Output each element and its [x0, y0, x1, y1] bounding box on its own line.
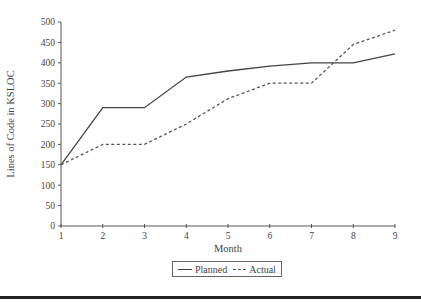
series-line-actual: [61, 30, 395, 165]
x-tick-label: 1: [59, 231, 64, 241]
legend-item-actual: Actual: [233, 264, 276, 275]
legend-item-planned: Planned: [178, 264, 227, 275]
x-tick-label: 9: [393, 231, 398, 241]
x-tick-label: 7: [309, 231, 314, 241]
y-tick-label: 350: [41, 79, 56, 89]
y-tick-label: 50: [46, 201, 56, 211]
x-axis-title: Month: [214, 243, 243, 254]
x-tick-label: 4: [184, 231, 189, 241]
chart-legend: Planned Actual: [172, 261, 282, 277]
line-chart: 050100150200250300350400450500 123456789…: [0, 0, 421, 303]
x-tick-label: 6: [267, 231, 272, 241]
y-tick-label: 250: [41, 119, 56, 129]
y-tick-label: 200: [41, 140, 56, 150]
y-axis-title: Lines of Code in KSLOC: [5, 70, 16, 177]
y-tick-label: 150: [41, 160, 56, 170]
solid-line-swatch-icon: [178, 269, 192, 270]
x-tick-label: 8: [351, 231, 356, 241]
y-tick-label: 0: [50, 221, 55, 231]
y-tick-label: 500: [41, 17, 56, 27]
dashed-line-swatch-icon: [233, 269, 246, 270]
y-tick-label: 300: [41, 99, 56, 109]
y-axis: 050100150200250300350400450500: [41, 17, 61, 231]
bottom-divider: [0, 296, 421, 299]
series-layer: [61, 30, 395, 165]
y-tick-label: 100: [41, 181, 56, 191]
x-axis: 123456789: [59, 224, 398, 241]
legend-label-actual: Actual: [249, 264, 276, 275]
x-tick-label: 3: [142, 231, 147, 241]
series-line-planned: [61, 54, 395, 165]
x-tick-label: 2: [100, 231, 105, 241]
y-tick-label: 400: [41, 58, 56, 68]
x-tick-label: 5: [226, 231, 231, 241]
legend-label-planned: Planned: [195, 264, 227, 275]
y-tick-label: 450: [41, 38, 56, 48]
